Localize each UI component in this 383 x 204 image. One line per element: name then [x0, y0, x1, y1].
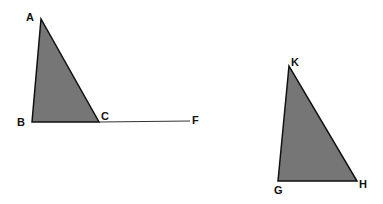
geometry-diagram: A B C F K G H	[0, 0, 383, 204]
label-k: K	[291, 56, 299, 68]
label-g: G	[274, 184, 283, 196]
label-a: A	[26, 11, 34, 23]
label-h: H	[359, 178, 367, 190]
label-c: C	[101, 110, 109, 122]
triangle-abc	[32, 19, 99, 122]
label-b: B	[17, 116, 25, 128]
label-f: F	[192, 114, 199, 126]
triangle-kgh	[278, 66, 357, 181]
segment-cf	[99, 121, 190, 122]
